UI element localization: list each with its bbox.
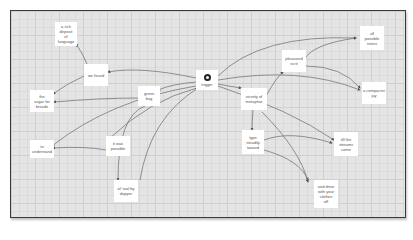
node-it-was-possible[interactable]: it was possible <box>106 136 130 156</box>
node-label: ol' tool by dapper <box>118 186 135 196</box>
node-label: all possible notes <box>365 31 380 46</box>
node-label: vicinity of metaphor <box>246 94 263 104</box>
node-pleasured-scrit[interactable]: pleasured scrit <box>282 50 306 72</box>
node-till-the-streams-come[interactable]: till the streams come <box>334 132 358 156</box>
node-label: till the streams come <box>339 137 353 152</box>
node-type-steadily-toward[interactable]: type steadily toward <box>242 130 264 154</box>
node-label: to understand <box>32 144 52 154</box>
node-to-understand[interactable]: to understand <box>30 140 54 158</box>
node-sugar-for-breads[interactable]: the sugar for breads <box>30 90 54 112</box>
edge <box>306 66 360 88</box>
node-rich-deposit[interactable]: a rich deposit of language <box>55 22 77 46</box>
node-compacter-jay[interactable]: a compacter jay <box>362 82 386 104</box>
edge <box>53 147 106 150</box>
node-label: type steadily toward <box>246 135 260 150</box>
edge <box>54 98 138 102</box>
node-label: pleasured scrit <box>285 56 303 66</box>
node-vicinity-of-metaphor[interactable]: vicinity of metaphor <box>241 88 267 110</box>
node-label: trigger <box>201 82 212 87</box>
node-drive-with-clothes-off[interactable]: and drive with your clothes off <box>314 180 338 208</box>
edge <box>76 44 87 64</box>
edge <box>218 86 334 140</box>
center-node[interactable]: trigger <box>196 70 218 90</box>
record-icon <box>204 74 211 81</box>
edge <box>252 110 253 130</box>
edge <box>158 82 196 90</box>
edge <box>262 112 308 182</box>
node-label: a rich deposit of language <box>58 24 74 44</box>
edge <box>108 70 196 78</box>
node-label: the sugar for breads <box>34 94 50 109</box>
node-green-bug[interactable]: green bug <box>138 86 160 106</box>
node-label: green bug <box>144 91 154 101</box>
edge <box>53 76 84 94</box>
edge <box>264 136 332 143</box>
node-we-found[interactable]: we found <box>84 64 108 86</box>
node-label: it was possible <box>111 141 126 151</box>
node-label: a compacter jay <box>363 88 385 98</box>
edge <box>304 38 356 60</box>
node-all-possible-notes[interactable]: all possible notes <box>360 26 384 50</box>
node-ol-tool-by-dapper[interactable]: ol' tool by dapper <box>114 180 138 202</box>
edge <box>266 72 283 96</box>
node-label: and drive with your clothes off <box>318 184 334 204</box>
node-label: we found <box>88 73 104 78</box>
